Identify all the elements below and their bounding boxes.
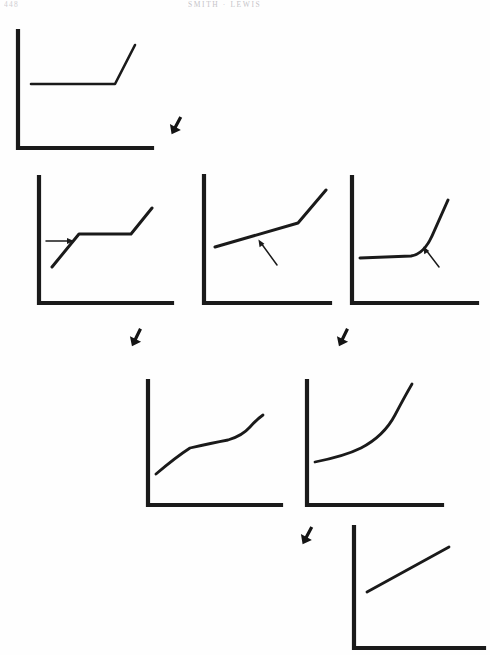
panel-2c-curve [360, 200, 448, 258]
flow-arrow-2 [126, 326, 146, 349]
flow-arrow-3 [333, 326, 353, 349]
flow-arrow-4 [297, 524, 317, 547]
panel-4 [354, 527, 484, 648]
figure-page: 448 SMITH · LEWIS [0, 0, 490, 655]
panel-3b-curve [315, 384, 412, 462]
panel-2c-axes [352, 177, 477, 303]
panel-2a [39, 177, 172, 303]
panel-2b-axes [204, 176, 330, 303]
panel-2b-curve [215, 190, 326, 247]
panel-2c-annotation-arrow [423, 247, 439, 267]
panel-2a-axes [39, 177, 172, 303]
panel-3a-curve [156, 415, 263, 474]
figure-canvas [0, 0, 490, 655]
panel-3b [307, 381, 442, 505]
flow-arrow-1 [166, 114, 186, 137]
panel-1 [18, 31, 152, 148]
panel-3b-axes [307, 381, 442, 505]
panel-2b-annotation-arrow [258, 240, 277, 265]
panel-3a [148, 381, 281, 505]
panel-2b [204, 176, 330, 303]
panel-4-curve [367, 547, 449, 592]
panel-1-curve [31, 45, 135, 84]
panel-2c [352, 177, 477, 303]
panel-2a-curve [52, 208, 152, 267]
